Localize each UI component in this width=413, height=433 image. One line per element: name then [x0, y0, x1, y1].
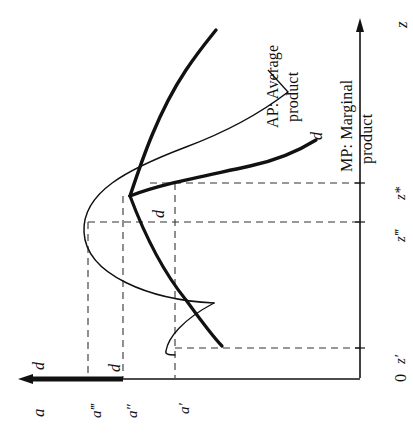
curve-marginal-product-right [130, 140, 316, 196]
a-axis [18, 374, 360, 384]
curve-average-product [84, 92, 288, 303]
guide-lines [88, 183, 360, 378]
ap-curve-label-line1: AP: Average [264, 45, 281, 128]
curve-marginal-product-upper [130, 30, 216, 196]
a-double-prime-label: a″ [124, 404, 140, 418]
z-axis-arrowhead [356, 18, 364, 32]
production-function-figure: z 0 z* z‴ z' a a‴ a″ a' d d d d AP: Aver… [0, 0, 413, 433]
mp-curve-label-line2: product [358, 114, 375, 164]
d-axis-arrow-label: d [30, 362, 47, 370]
d-segment-label: d [106, 364, 123, 372]
z-axis-label: z [393, 21, 411, 28]
curve-marginal-product-lower [130, 196, 222, 346]
diagram-canvas [0, 0, 413, 433]
mp-curve-label-line1: MP: Marginal [338, 80, 355, 172]
z-triple-prime-label: z‴ [392, 230, 408, 242]
z-star-label: z* [392, 187, 408, 200]
ap-curve-label-line2: product [284, 72, 301, 122]
a-axis-label: a [30, 409, 48, 418]
d-intersection-label: d [150, 210, 167, 218]
a-triple-prime-label: a‴ [88, 404, 104, 418]
d-curve-end-label: d [308, 132, 325, 140]
z-prime-label: z' [392, 355, 408, 364]
z-axis [355, 18, 365, 378]
origin-label: 0 [392, 374, 409, 382]
a-prime-label: a' [176, 403, 192, 414]
